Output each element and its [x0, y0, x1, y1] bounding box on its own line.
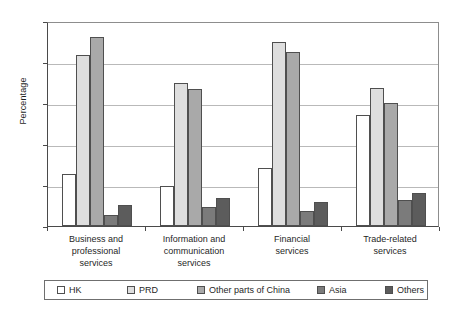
bar	[370, 88, 384, 226]
bar	[314, 202, 328, 226]
x-tick-mark	[439, 227, 440, 231]
bar	[76, 55, 90, 226]
legend-swatch-icon	[197, 286, 205, 294]
bar	[62, 174, 76, 226]
bar	[258, 168, 272, 226]
bar	[188, 89, 202, 226]
legend-swatch-icon	[57, 286, 65, 294]
legend-item-label: PRD	[139, 285, 158, 295]
x-category-label-line: services	[145, 257, 243, 269]
legend: HKPRDOther parts of ChinaAsiaOthers	[44, 280, 428, 300]
bar	[398, 200, 412, 226]
bar-group	[48, 23, 146, 226]
legend-item-label: Other parts of China	[209, 285, 290, 295]
bar	[300, 211, 314, 226]
x-tick-mark	[243, 227, 244, 231]
bar-group	[342, 23, 440, 226]
x-category-label: Trade-relatedservices	[341, 233, 439, 257]
x-category-label: Financialservices	[243, 233, 341, 257]
bar	[118, 205, 132, 226]
x-category-label-line: Trade-related	[341, 233, 439, 245]
legend-item-label: HK	[69, 285, 82, 295]
legend-item[interactable]: PRD	[127, 285, 158, 295]
legend-swatch-icon	[127, 286, 135, 294]
bar	[286, 52, 300, 226]
x-category-label-line: Financial	[243, 233, 341, 245]
x-tick-mark	[145, 227, 146, 231]
x-tick-mark	[47, 227, 48, 231]
bar-chart-figure: Percentage 0510152025 Business andprofes…	[0, 0, 456, 314]
legend-swatch-icon	[385, 286, 393, 294]
x-category-label-line: Business and	[47, 233, 145, 245]
legend-item[interactable]: HK	[57, 285, 82, 295]
x-category-label-line: Information and	[145, 233, 243, 245]
bar	[216, 198, 230, 226]
legend-item[interactable]: Asia	[317, 285, 347, 295]
bar	[202, 207, 216, 226]
bar	[272, 42, 286, 226]
bar	[160, 186, 174, 226]
x-category-label-line: professional	[47, 245, 145, 257]
bar	[174, 83, 188, 227]
y-axis-title: Percentage	[18, 46, 28, 156]
bar-group	[244, 23, 342, 226]
x-category-label-line: services	[47, 257, 145, 269]
bar	[104, 215, 118, 226]
bars-layer	[48, 23, 438, 226]
x-category-label-line: services	[243, 245, 341, 257]
bar	[412, 193, 426, 226]
legend-item[interactable]: Others	[385, 285, 424, 295]
legend-swatch-icon	[317, 286, 325, 294]
x-category-label-line: services	[341, 245, 439, 257]
x-category-label: Information andcommunicationservices	[145, 233, 243, 269]
bar-group	[146, 23, 244, 226]
x-category-label-line: communication	[145, 245, 243, 257]
bar	[384, 103, 398, 226]
x-category-label: Business andprofessionalservices	[47, 233, 145, 269]
plot-area	[47, 22, 439, 227]
bar	[356, 115, 370, 226]
legend-item[interactable]: Other parts of China	[197, 285, 290, 295]
legend-item-label: Asia	[329, 285, 347, 295]
x-tick-mark	[341, 227, 342, 231]
legend-item-label: Others	[397, 285, 424, 295]
bar	[90, 37, 104, 226]
